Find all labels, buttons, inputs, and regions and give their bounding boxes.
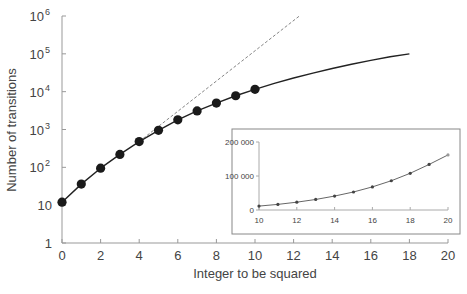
y-tick-label: 10 [38,198,52,213]
inset-data-point [276,203,279,206]
x-tick-label: 16 [364,248,378,263]
x-tick-label: 18 [402,248,416,263]
x-tick-label: 10 [248,248,262,263]
inset-data-point [333,194,336,197]
x-tick-label: 0 [58,248,65,263]
y-tick-label: 10 [30,123,44,138]
data-point [250,85,259,94]
x-tick-label: 12 [286,248,300,263]
inset-data-point [446,153,449,156]
inset-x-tick-label: 18 [406,216,415,225]
data-point [193,106,202,115]
x-tick-label: 20 [441,248,455,263]
y-tick-label: 10 [30,9,44,24]
data-point [135,137,144,146]
y-tick-label: 1 [45,236,52,251]
inset-frame [232,129,460,234]
x-tick-label: 6 [174,248,181,263]
inset-x-tick-label: 12 [292,216,301,225]
y-tick-exponent: 5 [45,45,50,55]
data-point [115,150,124,159]
inset-data-point [295,201,298,204]
data-point [212,98,221,107]
y-tick-exponent: 3 [45,121,50,131]
inset-data-point [390,179,393,182]
data-point [173,115,182,124]
data-point [154,126,163,135]
y-tick-exponent: 4 [45,83,50,93]
inset-chart: 1012141618200100 000200 000 [225,129,460,234]
inset-x-tick-label: 10 [255,216,264,225]
inset-data-point [352,190,355,193]
transitions-chart: 02468101214161820110102103104105106 Inte… [0,0,467,294]
y-tick-label: 10 [30,85,44,100]
inset-x-tick-label: 14 [330,216,339,225]
inset-y-tick-label: 200 000 [225,138,254,147]
x-tick-label: 2 [97,248,104,263]
data-point [231,91,240,100]
inset-x-tick-label: 16 [368,216,377,225]
inset-x-tick-label: 20 [444,216,453,225]
inset-y-tick-label: 0 [250,206,255,215]
inset-data-point [428,163,431,166]
data-point [77,180,86,189]
inset-data-point [314,198,317,201]
inset-data-point [409,172,412,175]
x-tick-label: 8 [213,248,220,263]
y-tick-exponent: 6 [45,7,50,17]
x-tick-label: 14 [325,248,339,263]
y-tick-exponent: 2 [45,158,50,168]
data-point [57,198,66,207]
y-axis-label: Number of transitions [4,68,19,192]
inset-data-point [371,185,374,188]
inset-data-point [257,204,260,207]
y-tick-label: 10 [30,160,44,175]
inset-y-tick-label: 100 000 [225,172,254,181]
data-point [96,164,105,173]
x-tick-label: 4 [136,248,143,263]
x-axis-label: Integer to be squared [193,266,317,281]
y-tick-label: 10 [30,47,44,62]
dashed-extrapolation-line [139,16,299,142]
